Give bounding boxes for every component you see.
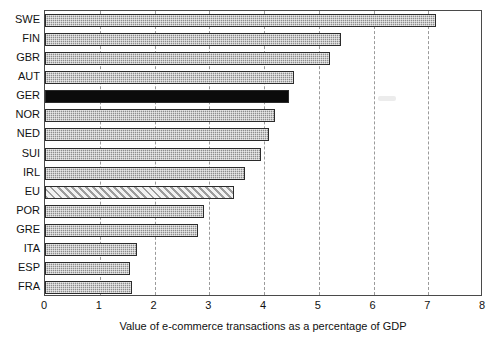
bar-chart-figure: SWEFINGBRAUTGERNORNEDSUIIRLEUPORGREITAES… <box>0 0 489 344</box>
bar-ger <box>45 90 289 103</box>
bar-row <box>45 167 483 180</box>
bar-fra <box>45 281 132 294</box>
bar-row <box>45 243 483 256</box>
x-tick-label: 7 <box>424 299 430 311</box>
bar-eu <box>45 186 234 199</box>
y-label-eu: EU <box>0 185 40 198</box>
bar-row <box>45 281 483 294</box>
bar-row <box>45 148 483 161</box>
bar-row <box>45 52 483 65</box>
bar-row <box>45 262 483 275</box>
bar-gbr <box>45 52 330 65</box>
bar-irl <box>45 167 245 180</box>
y-label-nor: NOR <box>0 108 40 121</box>
y-label-gre: GRE <box>0 223 40 236</box>
y-label-gbr: GBR <box>0 51 40 64</box>
x-tick-label: 4 <box>260 299 266 311</box>
y-label-esp: ESP <box>0 261 40 274</box>
scan-artifact <box>378 96 396 101</box>
y-label-ger: GER <box>0 89 40 102</box>
y-label-fin: FIN <box>0 32 40 45</box>
bar-nor <box>45 109 275 122</box>
bar-row <box>45 186 483 199</box>
bar-ned <box>45 128 269 141</box>
bar-row <box>45 205 483 218</box>
x-tick-label: 2 <box>150 299 156 311</box>
x-axis-title: Value of e-commerce transactions as a pe… <box>44 320 482 332</box>
y-label-irl: IRL <box>0 166 40 179</box>
bar-swe <box>45 14 436 27</box>
y-label-fra: FRA <box>0 280 40 293</box>
x-tick-label: 8 <box>479 299 485 311</box>
y-label-ned: NED <box>0 127 40 140</box>
x-tick-label: 1 <box>96 299 102 311</box>
bar-sui <box>45 148 261 161</box>
bar-aut <box>45 71 294 84</box>
bar-ita <box>45 243 137 256</box>
bar-gre <box>45 224 198 237</box>
y-label-sui: SUI <box>0 147 40 160</box>
y-label-swe: SWE <box>0 13 40 26</box>
bar-row <box>45 109 483 122</box>
x-tick-label: 5 <box>315 299 321 311</box>
y-label-ita: ITA <box>0 242 40 255</box>
y-label-por: POR <box>0 204 40 217</box>
bar-fin <box>45 33 341 46</box>
x-tick-label: 6 <box>369 299 375 311</box>
bar-esp <box>45 262 130 275</box>
plot-area <box>44 10 482 296</box>
x-axis-tick-labels: 012345678 <box>44 299 482 315</box>
bar-row <box>45 71 483 84</box>
x-tick-label: 0 <box>41 299 47 311</box>
bar-row <box>45 90 483 103</box>
x-tick-label: 3 <box>205 299 211 311</box>
bar-row <box>45 33 483 46</box>
bar-row <box>45 128 483 141</box>
bar-row <box>45 224 483 237</box>
bar-row <box>45 14 483 27</box>
y-axis-category-labels: SWEFINGBRAUTGERNORNEDSUIIRLEUPORGREITAES… <box>0 10 40 296</box>
y-label-aut: AUT <box>0 70 40 83</box>
bar-por <box>45 205 204 218</box>
